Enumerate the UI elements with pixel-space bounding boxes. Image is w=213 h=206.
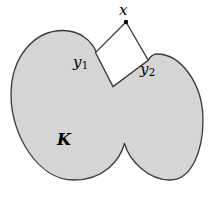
label-y2-subscript: 2: [148, 67, 155, 78]
figure-canvas: x y1 y2 K: [0, 0, 213, 206]
point-x-marker: [124, 20, 128, 24]
label-x: x: [119, 3, 127, 18]
label-y1-subscript: 1: [81, 60, 88, 71]
label-k-text: K: [57, 130, 71, 149]
figure-drawing: [0, 0, 213, 206]
label-k: K: [57, 132, 71, 148]
label-y1: y1: [73, 55, 88, 71]
label-y2: y2: [140, 62, 155, 78]
label-x-text: x: [119, 1, 127, 19]
